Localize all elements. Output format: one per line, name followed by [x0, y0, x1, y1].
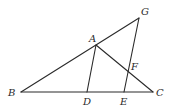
- label-point-g: G: [141, 6, 149, 17]
- label-point-b: B: [7, 87, 15, 98]
- segment-AD: [87, 45, 96, 92]
- label-point-e: E: [119, 96, 128, 107]
- segment-AC: [96, 45, 153, 92]
- segment-BG: [21, 18, 139, 92]
- segment-GE: [124, 18, 139, 92]
- label-point-f: F: [130, 61, 139, 72]
- label-point-d: D: [82, 96, 91, 107]
- label-point-c: C: [156, 87, 164, 98]
- label-point-a: A: [88, 33, 96, 44]
- geometry-diagram: A B C D E F G: [0, 0, 173, 109]
